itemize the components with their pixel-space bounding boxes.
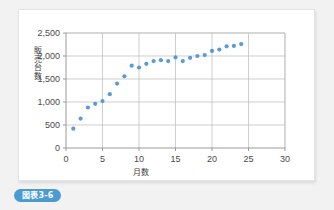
x-tick-label: 10: [134, 154, 144, 164]
data-point: [159, 58, 163, 62]
data-point: [217, 47, 221, 51]
y-tick-label: 0: [55, 143, 60, 153]
grid-lines: [66, 33, 285, 148]
figure-container: 05001,0001,5002,0002,500 051015202530 月数…: [0, 0, 334, 210]
x-tick-label: 0: [63, 154, 68, 164]
data-point: [137, 65, 141, 69]
data-point: [195, 54, 199, 58]
y-tick-label: 500: [45, 120, 60, 130]
data-point: [203, 53, 207, 57]
x-tick-label: 25: [243, 154, 253, 164]
data-point: [115, 82, 119, 86]
x-tick-label: 20: [207, 154, 217, 164]
y-tick-label: 1,000: [37, 97, 60, 107]
data-point: [232, 44, 236, 48]
data-point: [71, 127, 75, 131]
data-point: [100, 99, 104, 103]
data-point: [188, 56, 192, 60]
data-point: [152, 59, 156, 63]
figure-caption-badge: 図表3-6: [14, 189, 61, 202]
x-axis-tick-labels: 051015202530: [63, 154, 290, 164]
data-point: [93, 102, 97, 106]
data-point: [130, 64, 134, 68]
x-tick-label: 30: [280, 154, 290, 164]
y-tick-label: 2,500: [37, 28, 60, 38]
data-point: [166, 59, 170, 63]
data-point: [108, 92, 112, 96]
scatter-chart: 05001,0001,5002,0002,500 051015202530 月数…: [0, 0, 334, 210]
data-point: [86, 105, 90, 109]
tick-marks: [63, 33, 285, 151]
y-axis-title: 販売台数: [33, 45, 42, 81]
x-axis-title: 月数: [133, 167, 149, 177]
data-points: [71, 42, 243, 131]
x-tick-label: 5: [100, 154, 105, 164]
data-point: [122, 74, 126, 78]
x-tick-label: 15: [170, 154, 180, 164]
data-point: [225, 44, 229, 48]
data-point: [173, 55, 177, 59]
data-point: [181, 59, 185, 63]
data-point: [79, 116, 83, 120]
data-point: [210, 49, 214, 53]
data-point: [144, 62, 148, 66]
data-point: [239, 42, 243, 46]
